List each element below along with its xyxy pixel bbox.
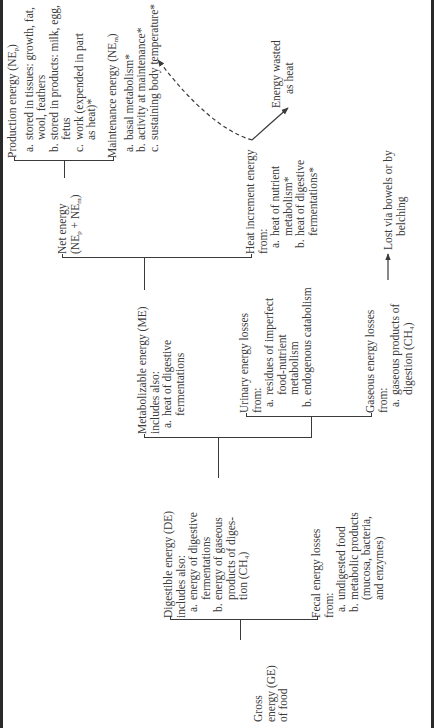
arrow-heat-to-wasted [252,108,288,140]
arrows-layer [0,0,436,728]
arrow-heat-to-maintenance [158,60,252,140]
energy-partition-diagram: Gross energy (GE) of food Digestible ene… [0,0,436,728]
